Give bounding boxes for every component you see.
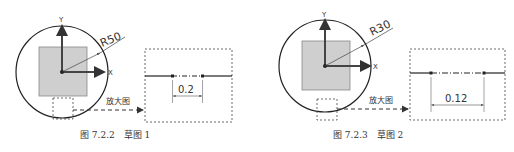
endpoint-left [171,75,174,78]
x-axis-label: X [108,69,113,77]
figure-1: Y X R50 放大图 0.2 图 7.2.2 草图 1 [16,16,232,140]
dimension-value: 0.12 [445,93,467,104]
sketch-figures: Y X R50 放大图 0.2 图 7.2.2 草图 1 Y X R30 放大图 [0,0,514,152]
endpoint-right [201,75,204,78]
figure-caption: 图 7.2.3 草图 2 [333,129,403,140]
y-axis-label: Y [321,11,327,19]
endpoint-right [483,72,486,75]
magnify-region [53,98,73,119]
x-axis-label: X [373,63,378,71]
magnify-region [317,99,337,120]
zoom-box [410,49,505,120]
magnify-label: 放大图 [106,96,130,106]
figure-2: Y X R30 放大图 0.12 图 7.2.3 草图 2 [279,11,505,140]
magnify-label: 放大图 [369,95,393,105]
dimension-value: 0.2 [178,84,194,95]
figure-caption: 图 7.2.2 草图 1 [80,129,150,140]
endpoint-left [430,72,433,75]
radius-label: R50 [98,30,123,50]
y-axis-label: Y [58,16,64,24]
